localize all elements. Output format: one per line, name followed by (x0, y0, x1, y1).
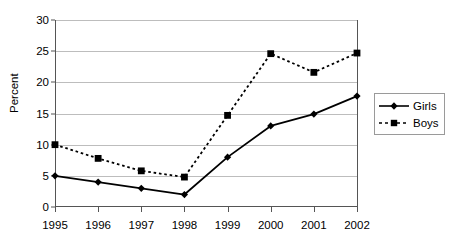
data-point-girls (353, 92, 360, 99)
legend-label-boys: Boys (413, 117, 439, 129)
legend: Girls Boys (374, 93, 445, 135)
x-tick-mark (98, 207, 99, 212)
x-tick-mark (141, 207, 142, 212)
data-point-girls (95, 178, 102, 185)
y-tick-label: 25 (36, 45, 49, 57)
data-point-boys (267, 50, 274, 57)
legend-item-girls: Girls (378, 97, 439, 114)
x-tick-mark (184, 207, 185, 212)
data-point-boys (95, 155, 102, 162)
data-point-boys (138, 167, 145, 174)
x-tick-mark (314, 207, 315, 212)
series-layer (55, 20, 358, 207)
line-chart: Percent 051015202530 1995199619971998199… (0, 0, 450, 241)
y-tick-label: 20 (36, 76, 49, 88)
y-tick-label: 5 (43, 170, 49, 182)
x-tick-label: 1996 (85, 219, 111, 231)
x-tick-label: 1998 (172, 219, 198, 231)
series-line-girls (55, 96, 357, 194)
diamond-marker-icon (378, 100, 410, 112)
x-tick-label: 1995 (42, 219, 68, 231)
data-point-boys (354, 50, 361, 57)
x-tick-mark (357, 207, 358, 212)
y-axis-title: Percent (8, 73, 20, 113)
data-point-boys (224, 112, 231, 119)
square-marker-icon (378, 117, 410, 129)
plot-area: 051015202530 199519961997199819992000200… (55, 20, 358, 207)
data-point-boys (310, 69, 317, 76)
y-tick-label: 30 (36, 14, 49, 26)
x-tick-label: 1999 (215, 219, 241, 231)
legend-item-boys: Boys (378, 114, 439, 131)
data-point-girls (310, 111, 317, 118)
y-tick-label: 10 (36, 139, 49, 151)
legend-label-girls: Girls (413, 100, 437, 112)
x-tick-label: 2001 (301, 219, 327, 231)
x-tick-label: 2000 (258, 219, 284, 231)
data-point-girls (51, 172, 58, 179)
x-tick-mark (228, 207, 229, 212)
x-tick-mark (55, 207, 56, 212)
data-point-girls (138, 185, 145, 192)
data-point-boys (181, 174, 188, 181)
x-tick-label: 1997 (128, 219, 154, 231)
y-tick-label: 0 (43, 201, 49, 213)
y-tick-label: 15 (36, 108, 49, 120)
x-tick-mark (271, 207, 272, 212)
x-tick-label: 2002 (344, 219, 370, 231)
data-point-boys (52, 141, 59, 148)
